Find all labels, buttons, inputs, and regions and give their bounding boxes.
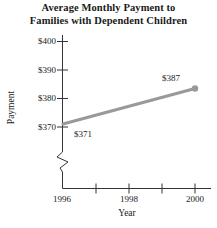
- y-axis-break-zigzag: [57, 152, 68, 172]
- y-axis-tick-label-380: $380: [14, 93, 56, 103]
- x-axis-tick-label-2000: 2000: [178, 194, 212, 204]
- y-axis-tick-label-370: $370: [14, 122, 56, 132]
- x-axis-tick-label-1998: 1998: [112, 194, 146, 204]
- data-point-label-2000: $387: [162, 73, 180, 83]
- x-axis-title: Year: [62, 208, 192, 219]
- y-axis-title: Payment: [6, 73, 17, 143]
- y-axis-tick-label-400: $400: [14, 36, 56, 46]
- data-point-marker-2000: [192, 85, 198, 91]
- x-axis-tick-label-1996: 1996: [45, 194, 79, 204]
- data-line-series-1: [63, 89, 195, 125]
- y-axis-tick-label-390: $390: [14, 65, 56, 75]
- chart-container: Average Monthly Payment to Families with…: [0, 0, 217, 228]
- data-point-label-1996: $371: [74, 129, 92, 139]
